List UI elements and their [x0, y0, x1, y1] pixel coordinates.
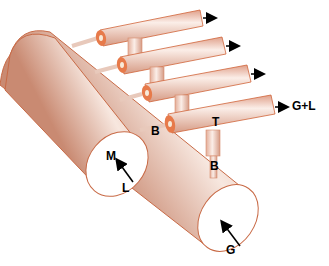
- label-inlet-l: L: [122, 182, 129, 194]
- label-branch-lower: B: [210, 160, 219, 172]
- label-tee: T: [212, 116, 219, 128]
- manifold-illustration: [0, 0, 329, 266]
- label-branch: B: [151, 125, 160, 137]
- pipe-manifold-diagram: M L G B B T G+L: [0, 0, 329, 266]
- label-gas-inlet: G: [226, 244, 235, 256]
- label-outlet: G+L: [292, 100, 316, 112]
- label-main: M: [106, 150, 116, 162]
